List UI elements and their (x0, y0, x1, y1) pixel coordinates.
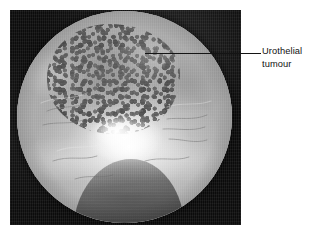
endoscope-field-of-view (17, 11, 232, 223)
endoscopic-photo-panel (10, 10, 241, 225)
scope-grain (17, 11, 232, 223)
annotation-label-line-1: Urothelial (262, 45, 312, 58)
annotation-leader-line (145, 53, 261, 54)
figure-root: Urothelial tumour (0, 0, 313, 233)
annotation-label-urothelial-tumour: Urothelial tumour (262, 45, 312, 70)
annotation-label-line-2: tumour (262, 58, 312, 71)
